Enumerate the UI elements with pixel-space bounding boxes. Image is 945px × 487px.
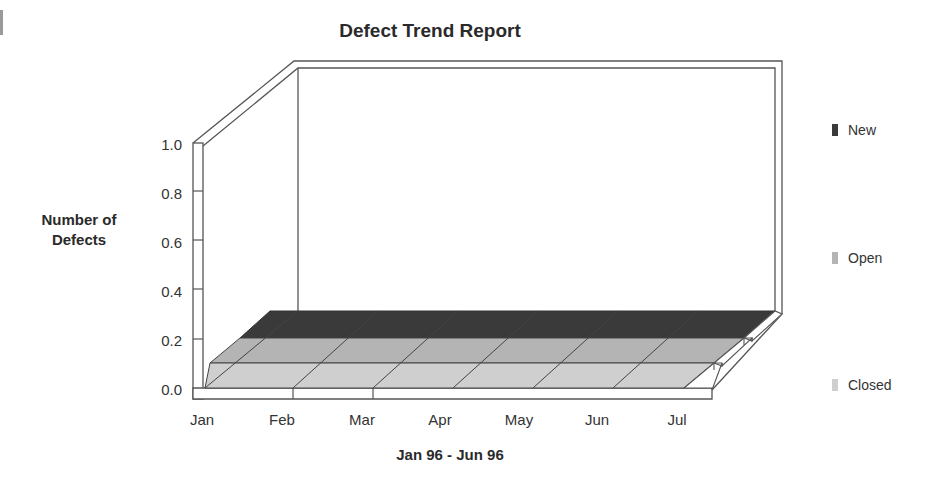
- legend-swatch-open-icon: [832, 252, 838, 264]
- legend-swatch-new-icon: [832, 124, 838, 136]
- x-tick: May: [489, 411, 549, 428]
- series-new-band: [240, 311, 775, 338]
- x-tick: Jun: [567, 411, 627, 428]
- legend-item-new: New: [832, 122, 876, 138]
- x-tick: Jul: [647, 411, 707, 428]
- legend-label: New: [848, 122, 876, 138]
- legend-label: Closed: [848, 377, 892, 393]
- x-tick: Jan: [172, 411, 232, 428]
- legend-item-open: Open: [832, 250, 882, 266]
- x-tick: Feb: [252, 411, 312, 428]
- legend-swatch-closed-icon: [832, 379, 838, 391]
- x-tick: Mar: [332, 411, 392, 428]
- legend-label: Open: [848, 250, 882, 266]
- frame-inner: [203, 68, 775, 311]
- legend-item-closed: Closed: [832, 377, 892, 393]
- chart-plot-area: [0, 0, 945, 487]
- series-closed-band: [205, 363, 714, 388]
- x-axis-label: Jan 96 - Jun 96: [350, 446, 550, 463]
- x-tick: Apr: [410, 411, 470, 428]
- y-axis-wall: [193, 143, 203, 399]
